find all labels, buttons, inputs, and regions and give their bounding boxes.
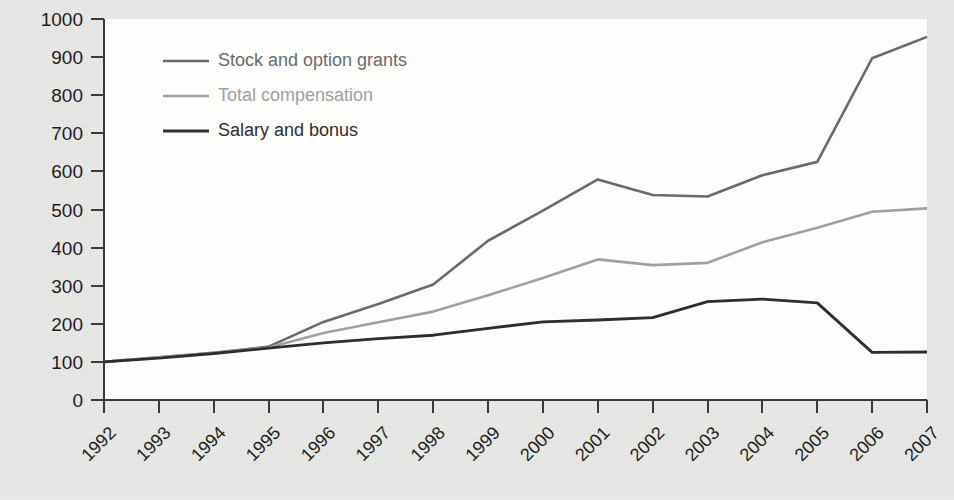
x-tick-label: 1996 <box>297 423 339 465</box>
x-tick-label: 1999 <box>461 423 503 465</box>
y-tick-label: 700 <box>51 123 83 144</box>
y-axis: 01002003004005006007008009001000 <box>41 9 104 411</box>
legend-label-1[interactable]: Total compensation <box>218 85 373 105</box>
y-tick-label: 100 <box>51 352 83 373</box>
plot-area-background <box>104 19 927 400</box>
chart-canvas: 0100200300400500600700800900100019921993… <box>0 0 954 500</box>
x-tick-label: 2003 <box>681 423 723 465</box>
y-tick-label: 1000 <box>41 9 83 30</box>
x-tick-label: 2005 <box>791 423 833 465</box>
x-tick-label: 1993 <box>132 423 174 465</box>
x-tick-label: 2002 <box>626 423 668 465</box>
y-tick-label: 300 <box>51 276 83 297</box>
y-tick-label: 600 <box>51 161 83 182</box>
y-tick-label: 0 <box>72 390 83 411</box>
legend-label-2[interactable]: Salary and bonus <box>218 120 358 140</box>
legend-label-0[interactable]: Stock and option grants <box>218 50 407 70</box>
x-tick-label: 1997 <box>352 423 394 465</box>
y-tick-label: 900 <box>51 47 83 68</box>
y-tick-label: 800 <box>51 85 83 106</box>
x-tick-label: 1992 <box>77 423 119 465</box>
x-tick-label: 1995 <box>242 423 284 465</box>
x-tick-label: 1994 <box>187 423 229 465</box>
x-tick-label: 2004 <box>736 423 778 465</box>
y-tick-label: 400 <box>51 238 83 259</box>
x-axis: 1992199319941995199619971998199920002001… <box>77 400 942 465</box>
x-tick-label: 2007 <box>900 423 942 465</box>
y-tick-label: 500 <box>51 200 83 221</box>
x-tick-label: 2001 <box>571 423 613 465</box>
line-chart-figure: 0100200300400500600700800900100019921993… <box>0 0 954 500</box>
y-tick-label: 200 <box>51 314 83 335</box>
x-tick-label: 2006 <box>846 423 888 465</box>
x-tick-label: 1998 <box>407 423 449 465</box>
x-tick-label: 2000 <box>516 423 558 465</box>
